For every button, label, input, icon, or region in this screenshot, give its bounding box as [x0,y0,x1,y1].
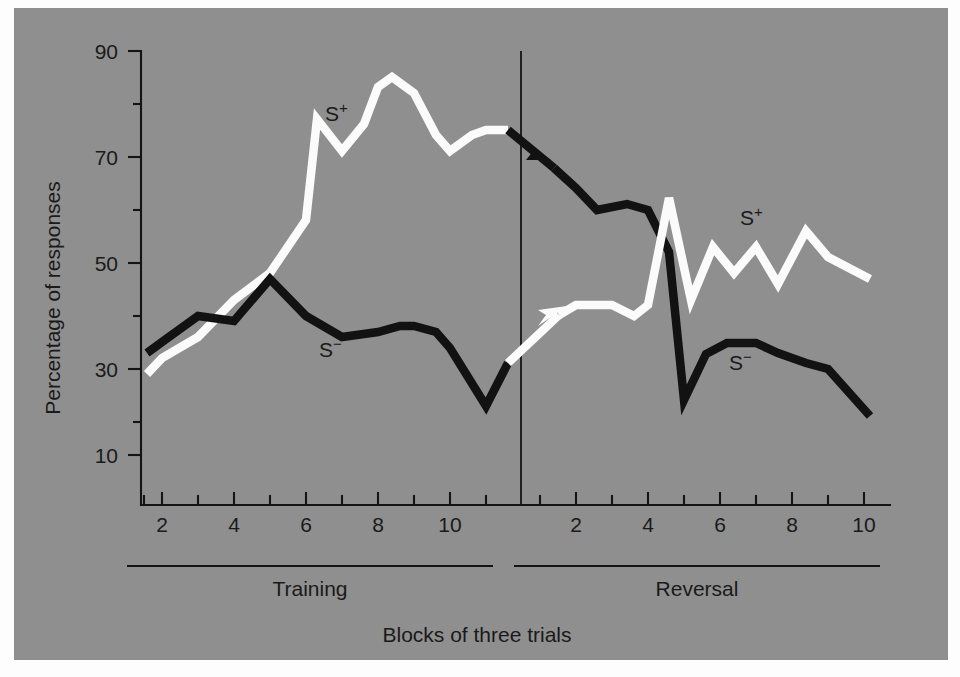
x-tick-label-reversal-10: 10 [852,513,875,536]
series-annotation-sminus-training-sup: − [333,335,342,352]
series-annotation-splus-reversal-sup: + [754,203,763,220]
line-chart: 90 70 50 30 10 Percentage of responses [14,8,948,660]
series-sminus-reversal [554,168,870,416]
figure-root: 90 70 50 30 10 Percentage of responses [0,0,960,677]
transition-connector-sminus-to-splus [508,315,559,363]
chart-panel: 90 70 50 30 10 Percentage of responses [14,8,948,660]
series-annotation-sminus-reversal-sup: − [743,348,752,365]
x-tick-label-training-2: 2 [156,513,168,536]
phase-label-training: Training [272,577,347,600]
series-annotation-splus-reversal-text: S [740,206,754,229]
x-tick-label-training-10: 10 [438,513,461,536]
series-annotation-sminus-training: S− [319,335,342,362]
y-axis: 90 70 50 30 10 [95,40,141,505]
series-annotation-splus-reversal: S+ [740,203,763,230]
series-annotation-splus-training-sup: + [339,99,348,116]
x-axis: 2 4 6 8 10 2 4 6 8 10 [141,492,890,536]
y-axis-title: Percentage of responses [41,181,64,414]
y-tick-label-10: 10 [95,444,118,467]
x-tick-label-reversal-2: 2 [570,513,582,536]
y-tick-label-70: 70 [95,146,118,169]
series-annotation-splus-training-text: S [325,102,339,125]
x-tick-label-reversal-4: 4 [642,513,654,536]
series-annotation-splus-training: S+ [325,99,348,126]
x-tick-label-training-6: 6 [300,513,312,536]
y-tick-label-90: 90 [95,40,118,63]
transition-connector-splus-to-sminus [508,130,554,168]
y-tick-label-30: 30 [95,358,118,381]
series-annotation-sminus-training-text: S [319,338,333,361]
phase-label-reversal: Reversal [656,577,739,600]
series-annotation-sminus-reversal: S− [729,348,752,375]
series-annotation-sminus-reversal-text: S [729,351,743,374]
x-tick-label-reversal-6: 6 [714,513,726,536]
y-tick-label-50: 50 [95,252,118,275]
x-axis-title: Blocks of three trials [382,623,571,646]
series-splus-reversal [559,198,870,316]
x-tick-label-training-8: 8 [372,513,384,536]
x-tick-label-training-4: 4 [228,513,240,536]
x-tick-label-reversal-8: 8 [786,513,798,536]
